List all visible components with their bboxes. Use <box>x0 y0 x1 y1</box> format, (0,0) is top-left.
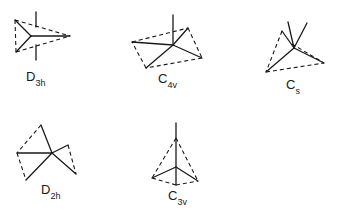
label-c4v: C4v <box>158 71 177 90</box>
symmetry-diagram: D3h C4v Cs D2h <box>0 0 342 215</box>
figure-d2h: D2h <box>17 125 76 201</box>
figure-c4v: C4v <box>132 15 202 90</box>
figure-cs: Cs <box>266 22 324 96</box>
label-d2h: D2h <box>41 182 60 201</box>
label-c3v: C3v <box>168 188 187 207</box>
figure-c3v: C3v <box>152 123 198 207</box>
figure-d3h: D3h <box>15 12 70 88</box>
label-cs: Cs <box>286 77 300 96</box>
label-d3h: D3h <box>26 69 45 88</box>
